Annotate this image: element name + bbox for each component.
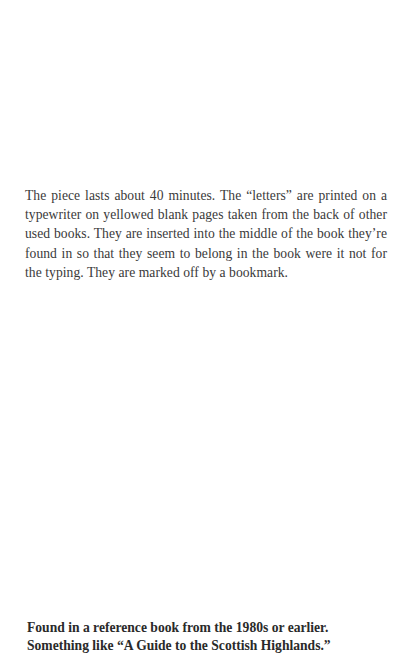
note-line-2: Something like “A Guide to the Scottish … (27, 637, 397, 655)
note-line-1: Found in a reference book from the 1980s… (27, 619, 397, 637)
body-paragraph: The piece lasts about 40 minutes. The “l… (25, 186, 387, 282)
bold-note: Found in a reference book from the 1980s… (27, 619, 397, 655)
